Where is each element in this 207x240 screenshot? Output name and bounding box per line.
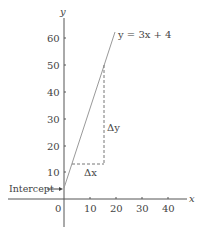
y-tick-label: 50 bbox=[47, 60, 60, 71]
y-tick-label: 60 bbox=[47, 33, 60, 44]
y-tick-label: 10 bbox=[47, 167, 60, 178]
y-tick-label: 30 bbox=[47, 114, 60, 125]
x-tick-label: 30 bbox=[136, 203, 149, 214]
x-tick-label: 20 bbox=[110, 203, 123, 214]
delta-x-label: Δx bbox=[84, 167, 97, 178]
y-axis-label: y bbox=[59, 6, 66, 17]
y-tick-label: 20 bbox=[47, 141, 60, 152]
linear-function-diagram: 0 10 20 30 40 10 20 30 40 50 60 y x y = … bbox=[0, 0, 207, 240]
x-tick-label: 40 bbox=[162, 203, 175, 214]
x-axis-label: x bbox=[189, 193, 195, 204]
y-tick-label: 40 bbox=[47, 87, 60, 98]
function-line bbox=[64, 32, 115, 188]
arrowhead-icon bbox=[59, 187, 63, 191]
x-tick-label: 10 bbox=[84, 203, 97, 214]
delta-y-label: Δy bbox=[107, 122, 120, 133]
x-tick-label: 0 bbox=[55, 203, 61, 214]
equation-label: y = 3x + 4 bbox=[117, 29, 172, 40]
